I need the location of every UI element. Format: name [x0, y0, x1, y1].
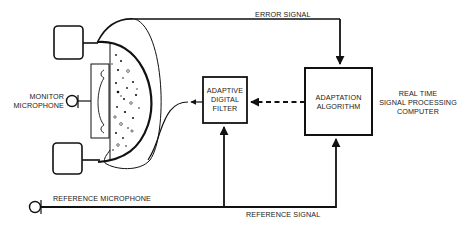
reference-signal-label: REFERENCE SIGNAL — [246, 210, 320, 219]
computer-label: REAL TIME SIGNAL PROCESSING COMPUTER — [378, 89, 458, 116]
adaptive-filter-label-line2: DIGITAL — [203, 95, 247, 104]
adaptation-label-line1: ADAPTATION — [305, 93, 372, 102]
computer-label-line3: COMPUTER — [378, 107, 458, 116]
adaptation-label-line2: ALGORITHM — [305, 102, 372, 111]
adaptive-digital-filter-label: ADAPTIVE DIGITAL FILTER — [203, 86, 247, 113]
bottom-earphone-box — [53, 143, 82, 174]
monitor-microphone-label: MONITOR MICROPHONE — [6, 92, 64, 110]
computer-label-line2: SIGNAL PROCESSING — [378, 98, 458, 107]
reference-microphone-icon — [30, 202, 41, 213]
adaptation-algorithm-label: ADAPTATION ALGORITHM — [305, 93, 372, 111]
error-signal-label: ERROR SIGNAL — [255, 10, 311, 19]
headband-curve — [98, 19, 340, 41]
monitor-microphone-label-line1: MONITOR — [6, 92, 64, 101]
ear-cushion-outline — [104, 19, 161, 169]
computer-label-line1: REAL TIME — [378, 89, 458, 98]
adaptive-filter-label-line1: ADAPTIVE — [203, 86, 247, 95]
top-earphone-box — [54, 26, 83, 59]
reference-microphone-label: REFERENCE MICROPHONE — [53, 194, 151, 203]
monitor-microphone-label-line2: MICROPHONE — [6, 101, 64, 110]
foam-dots — [111, 54, 140, 151]
speaker-driver — [91, 64, 109, 138]
monitor-microphone-icon — [67, 96, 78, 107]
adaptive-filter-label-line3: FILTER — [203, 104, 247, 113]
